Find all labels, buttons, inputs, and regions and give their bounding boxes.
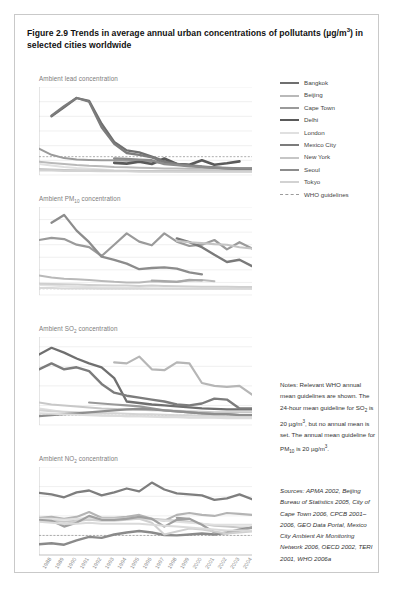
x-axis-tick-label: 1994 <box>116 556 127 569</box>
legend-item-label: Delhi <box>304 117 318 123</box>
legend-line-swatch-icon <box>280 95 299 97</box>
notes-sub: 2 <box>365 408 368 413</box>
chart-svg: 04080120160200240280 <box>39 207 252 297</box>
legend-line-swatch-icon <box>280 144 299 146</box>
chart-series-line <box>39 171 252 172</box>
legend-item[interactable]: Mexico City <box>280 139 375 151</box>
legend-line-swatch-icon <box>280 181 299 183</box>
chart-series-line <box>52 98 253 169</box>
legend-item-label: Beijing <box>304 92 323 98</box>
figure-title-prefix: Figure 2.9 Trends in average annual urba… <box>27 28 347 38</box>
x-axis-tick-label: 1988 <box>41 556 52 569</box>
chart-plot-area: 04080120140180 <box>39 337 252 427</box>
x-axis-tick-label: 1998 <box>166 556 177 569</box>
chart-svg: 00.40.81.21.62.02.4 <box>39 87 252 177</box>
x-axis-tick-label: 1999 <box>179 556 190 569</box>
legend-item[interactable]: Seoul <box>280 164 375 176</box>
chart-svg: 0408012014018019871988198919901991199219… <box>39 467 252 585</box>
legend-item-label: New York <box>304 154 330 160</box>
x-axis-tick-label: 1987 <box>39 556 40 569</box>
chart-title-subscript: 10 <box>74 199 79 204</box>
chart-series-line <box>152 280 202 282</box>
chart-panel-4: Ambient NO2 concentration040801201401801… <box>15 455 265 563</box>
legend-line-swatch-icon <box>280 82 299 84</box>
legend-item-label: London <box>304 130 325 136</box>
figure-card: Figure 2.9 Trends in average annual urba… <box>14 14 379 573</box>
legend-item-label: Bangkok <box>304 80 328 86</box>
chart-title-subscript: 2 <box>74 329 77 334</box>
legend-item[interactable]: London <box>280 127 375 139</box>
legend-item[interactable]: WHO guidelines <box>280 189 375 201</box>
chart-svg: 04080120140180 <box>39 337 252 427</box>
legend-item[interactable]: Delhi <box>280 114 375 126</box>
legend-item-label: Mexico City <box>304 142 336 148</box>
chart-panel-title: Ambient PM10 concentration <box>39 195 121 204</box>
legend-item[interactable]: Bangkok <box>280 77 375 89</box>
x-axis-tick-label: 2000 <box>191 556 202 569</box>
legend-line-swatch-icon <box>280 157 299 159</box>
x-axis-tick-label: 1992 <box>91 556 102 569</box>
x-axis-tick-label: 2003 <box>229 556 240 569</box>
chart-series-line <box>39 483 252 500</box>
chart-panel-3: Ambient SO2 concentration04080120140180 <box>15 325 265 433</box>
legend-item[interactable]: New York <box>280 151 375 163</box>
x-axis-tick-label: 1996 <box>141 556 152 569</box>
legend-line-swatch-icon <box>280 107 299 109</box>
legend-item[interactable]: Cape Town <box>280 102 375 114</box>
x-axis-tick-label: 1995 <box>129 556 140 569</box>
chart-panel-title: Ambient NO2 concentration <box>39 455 118 464</box>
x-axis-tick-label: 1989 <box>53 556 64 569</box>
chart-series-line <box>39 276 214 283</box>
x-axis-tick-label: 1990 <box>66 556 77 569</box>
chart-plot-area: 00.40.81.21.62.02.4 <box>39 87 252 177</box>
chart-plot-area: 04080120160200240280 <box>39 207 252 297</box>
figure-title: Figure 2.9 Trends in average annual urba… <box>27 24 368 52</box>
chart-plot-area: 0408012014018019871988198919901991199219… <box>39 467 252 585</box>
chart-panel-1: Ambient lead concentration00.40.81.21.62… <box>15 75 265 183</box>
notes-block: Notes: Relevant WHO annual mean guidelin… <box>280 379 378 457</box>
x-axis-tick-label: 2001 <box>204 556 215 569</box>
x-axis-tick-label: 1993 <box>104 556 115 569</box>
notes-sub: 10 <box>289 449 294 454</box>
chart-panel-title: Ambient SO2 concentration <box>39 325 118 334</box>
legend-line-swatch-icon <box>280 194 299 195</box>
legend-item-label: Cape Town <box>304 105 335 111</box>
x-axis-tick-label: 2002 <box>216 556 227 569</box>
chart-panel-2: Ambient PM10 concentration04080120160200… <box>15 195 265 303</box>
chart-legend: BangkokBeijingCape TownDelhiLondonMexico… <box>280 77 375 201</box>
chart-series-line <box>39 288 252 289</box>
legend-item[interactable]: Tokyo <box>280 176 375 188</box>
chart-title-subscript: 2 <box>74 459 77 464</box>
chart-series-line <box>114 357 252 395</box>
chart-panel-title: Ambient lead concentration <box>39 75 118 82</box>
legend-item-label: Tokyo <box>304 179 320 185</box>
legend-item-label: WHO guidelines <box>304 192 349 198</box>
notes-sup: 3 <box>302 419 305 424</box>
x-axis-tick-label: 2004 <box>241 556 252 569</box>
legend-line-swatch-icon <box>280 119 299 121</box>
legend-line-swatch-icon <box>280 132 299 134</box>
sources-block: Sources: APMA 2002, Beijing Bureau of St… <box>280 485 378 564</box>
legend-item-label: Seoul <box>304 167 320 173</box>
legend-line-swatch-icon <box>280 169 299 171</box>
x-axis-tick-label: 1991 <box>79 556 90 569</box>
legend-item[interactable]: Beijing <box>280 89 375 101</box>
x-axis-tick-label: 1997 <box>154 556 165 569</box>
notes-sup: 3 <box>325 444 328 449</box>
